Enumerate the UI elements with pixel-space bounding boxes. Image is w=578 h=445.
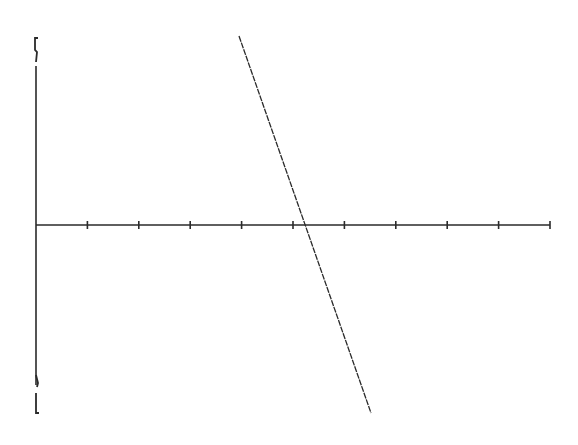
chart-plot <box>0 0 578 445</box>
y-axis-top-bracket <box>35 38 38 62</box>
